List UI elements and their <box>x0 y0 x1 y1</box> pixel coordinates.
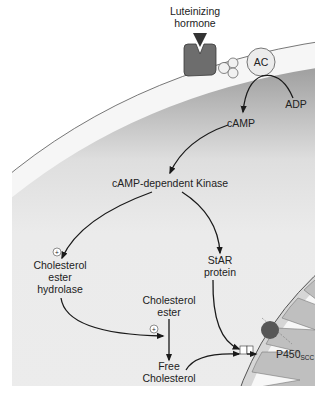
ceh-label-line3: hydrolase <box>37 283 83 295</box>
star-label-line2: protein <box>204 266 236 278</box>
plus-icon-ce: + <box>150 325 158 333</box>
membrane-pore <box>240 346 253 354</box>
ce-label-line1: Cholesterol <box>142 294 195 306</box>
steroidogenesis-diagram: AC Luteinizing hormone ADP cAMP cAMP-dep… <box>0 0 330 398</box>
kinase-label: cAMP-dependent Kinase <box>112 177 228 189</box>
camp-label: cAMP <box>227 117 255 129</box>
ceh-label-line2: ester <box>48 271 72 283</box>
svg-text:+: + <box>152 326 156 333</box>
adp-label: ADP <box>285 98 307 110</box>
p450scc-enzyme <box>261 321 279 339</box>
fc-label-line2: Cholesterol <box>142 372 195 384</box>
svg-text:+: + <box>55 249 59 256</box>
star-label-line1: StAR <box>208 254 233 266</box>
p450-label-main: P450 <box>276 348 301 360</box>
cell <box>0 40 330 398</box>
lh-receptor <box>184 44 216 76</box>
fc-label-line1: Free <box>158 360 180 372</box>
hormone-label-line2: hormone <box>174 17 216 29</box>
ac-label: AC <box>254 56 269 68</box>
plus-icon-ceh: + <box>53 248 61 256</box>
ceh-label-line1: Cholesterol <box>33 259 86 271</box>
ce-label-line2: ester <box>157 306 181 318</box>
p450-label-sub: SCC <box>301 354 315 361</box>
hormone-label-line1: Luteinizing <box>170 5 220 17</box>
